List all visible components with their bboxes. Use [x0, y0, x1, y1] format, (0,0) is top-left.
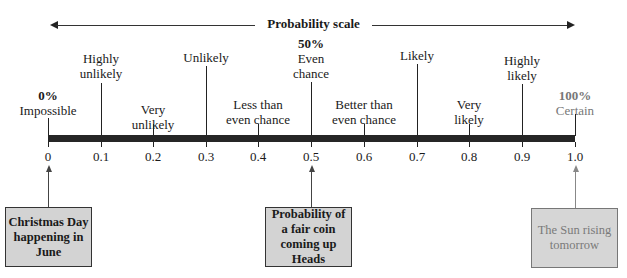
descriptor-line: chance	[266, 66, 356, 81]
tick-label-0.3: 0.3	[191, 149, 221, 165]
example-line: happening in	[8, 230, 88, 245]
descriptor-line: Less than	[213, 97, 303, 112]
descriptor-line: Unlikely	[161, 50, 251, 65]
descriptor-better-than-even: Better than even chance	[319, 97, 409, 127]
pointer-line-1.0	[575, 171, 576, 208]
tick-line-0.7	[417, 64, 418, 136]
example-line: coming up Heads	[266, 237, 351, 267]
pointer-line-0	[48, 171, 49, 207]
tick-below	[48, 142, 49, 147]
tick-line-0.9	[522, 84, 523, 136]
descriptor-even-chance: 50% Even chance	[266, 36, 356, 81]
tick-below	[575, 142, 576, 147]
tick-below	[417, 142, 418, 147]
tick-line-0	[48, 118, 49, 136]
tick-below	[311, 142, 312, 147]
tick-below	[364, 142, 365, 147]
descriptor-unlikely: Unlikely	[161, 50, 251, 65]
example-line: tomorrow	[538, 238, 612, 253]
tick-label-0.6: 0.6	[349, 149, 379, 165]
example-box-coin: Probability of a fair coin coming up Hea…	[265, 207, 352, 267]
descriptor-highly-unlikely: Highly unlikely	[56, 51, 146, 81]
example-line: The Sun rising	[538, 223, 612, 238]
tick-below	[522, 142, 523, 147]
example-line: Christmas Day	[8, 215, 88, 230]
descriptor-line: Better than	[319, 97, 409, 112]
tick-label-0.7: 0.7	[402, 149, 432, 165]
arrow-right-icon	[567, 21, 575, 29]
tick-label-0: 0	[33, 149, 63, 165]
tick-line-0.3	[206, 66, 207, 136]
diagram-title: Probability scale	[255, 16, 372, 32]
descriptor-line: likely	[477, 68, 567, 83]
descriptor-line: Very	[108, 102, 198, 117]
descriptor-label: Impossible	[3, 103, 93, 118]
percent-label: 0%	[3, 88, 93, 103]
descriptor-line: Highly	[56, 51, 146, 66]
tick-line-0.5	[311, 82, 312, 136]
descriptor-impossible: 0% Impossible	[3, 88, 93, 118]
example-line: a fair coin	[266, 222, 351, 237]
descriptor-line: Highly	[477, 53, 567, 68]
tick-below	[258, 142, 259, 147]
descriptor-very-likely: Very likely	[424, 97, 514, 127]
descriptor-line: unlikely	[56, 66, 146, 81]
example-line: June	[8, 245, 88, 260]
tick-label-0.8: 0.8	[454, 149, 484, 165]
example-line: Probability of	[266, 207, 351, 222]
tick-label-0.9: 0.9	[507, 149, 537, 165]
tick-below	[153, 142, 154, 147]
descriptor-highly-likely: Highly likely	[477, 53, 567, 83]
descriptor-line: Likely	[372, 48, 462, 63]
tick-line-0.1	[101, 83, 102, 136]
descriptor-likely: Likely	[372, 48, 462, 63]
percent-label: 50%	[266, 36, 356, 51]
descriptor-less-than-even: Less than even chance	[213, 97, 303, 127]
tick-label-0.1: 0.1	[86, 149, 116, 165]
tick-below	[206, 142, 207, 147]
tick-below	[101, 142, 102, 147]
tick-below	[469, 142, 470, 147]
example-box-sun: The Sun rising tomorrow	[531, 208, 618, 268]
pointer-line-0.5	[311, 171, 312, 207]
tick-line-1.0	[575, 114, 576, 136]
descriptor-line: Very	[424, 97, 514, 112]
probability-bar	[48, 135, 575, 142]
tick-label-0.5: 0.5	[296, 149, 326, 165]
descriptor-line: Even	[266, 51, 356, 66]
percent-label: 100%	[530, 88, 620, 103]
example-box-christmas: Christmas Day happening in June	[5, 207, 92, 267]
tick-label-1.0: 1.0	[560, 149, 590, 165]
tick-label-0.2: 0.2	[138, 149, 168, 165]
tick-label-0.4: 0.4	[243, 149, 273, 165]
